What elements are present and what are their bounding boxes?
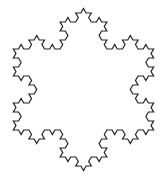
koch-snowflake-curve	[0, 0, 167, 178]
koch-snowflake-figure	[0, 0, 167, 178]
fractal-path	[13, 9, 153, 171]
